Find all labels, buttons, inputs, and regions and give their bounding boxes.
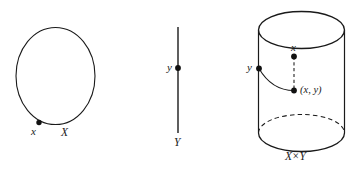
- product-label-y: Y: [300, 150, 306, 162]
- cylinder-side-point-label: y: [247, 62, 252, 73]
- circle-space-label: X: [61, 127, 68, 139]
- product-label-x: X: [285, 150, 292, 162]
- circle-outline: [16, 28, 95, 125]
- cylinder-bottom-front-arc: [259, 133, 345, 152]
- cylinder-top-point-label: x: [291, 42, 296, 53]
- segment-panel-group: [175, 27, 181, 133]
- circle-panel-group: [16, 28, 95, 126]
- cylinder-product-label: X×Y: [285, 151, 306, 163]
- segment-space-label: Y: [174, 137, 180, 149]
- product-space-figure: x X y Y x y (x, y) X×Y: [0, 0, 357, 172]
- product-label-times: ×: [292, 150, 300, 162]
- segment-point-label: y: [167, 62, 172, 73]
- cylinder-side-point-marker: [256, 66, 262, 72]
- cylinder-pair-point-label: (x, y): [300, 85, 322, 96]
- circle-point-label: x: [31, 126, 36, 137]
- cylinder-panel-group: [256, 12, 344, 152]
- cylinder-top-ellipse: [259, 12, 345, 49]
- cylinder-pair-point-marker: [291, 88, 297, 94]
- cylinder-top-point-marker: [291, 54, 297, 60]
- segment-point-marker: [175, 65, 181, 71]
- circle-point-marker: [36, 120, 41, 125]
- cylinder-bottom-back-arc: [259, 115, 345, 133]
- slice-curve-from-y: [259, 69, 294, 91]
